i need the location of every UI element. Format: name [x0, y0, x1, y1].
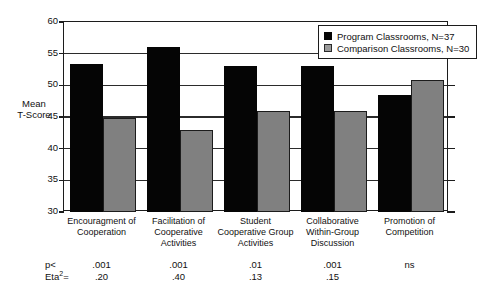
eta-value-cell: .15	[294, 271, 371, 283]
bar-comparison-classrooms	[334, 111, 367, 212]
legend-item: Program Classrooms, N=37	[324, 30, 469, 42]
bar-chart-figure: Mean T-Score 30354045505560 Program Clas…	[0, 0, 494, 297]
y-axis-title-line-1: Mean	[8, 98, 60, 109]
p-value-cell: ns	[371, 259, 448, 271]
y-axis-tick-label: 50	[38, 79, 58, 89]
x-axis-category-label: Promotion ofCompetition	[364, 216, 455, 238]
p-value-cell: .001	[63, 259, 140, 271]
x-axis-category-label-line: Competition	[364, 227, 455, 238]
statistics-block: p< Eta2= .001.20.001.40.01.13.001.15ns	[0, 259, 494, 289]
y-axis-tick-mark-left	[59, 53, 64, 54]
y-axis-tick-label: 35	[38, 174, 58, 184]
y-axis-tick-label: 45	[38, 111, 58, 121]
y-axis-tick-label: 30	[38, 206, 58, 216]
y-axis-tick-mark-left	[59, 180, 64, 181]
y-axis-tick-mark-right	[447, 148, 455, 150]
x-axis-category-label-line: Discussion	[287, 238, 378, 249]
bar-comparison-classrooms	[103, 118, 136, 212]
y-axis-tick-label: 55	[38, 48, 58, 58]
bar-program-classrooms	[301, 66, 334, 212]
bar-program-classrooms	[378, 95, 411, 212]
black-square-swatch	[324, 32, 332, 40]
p-value-cell: .001	[294, 259, 371, 271]
y-axis-tick-mark-right	[447, 85, 455, 87]
y-axis-tick-mark-right	[447, 211, 455, 213]
y-axis-tick-mark-left	[59, 211, 64, 212]
p-row-label: p<	[45, 259, 56, 271]
y-axis-tick-label: 40	[38, 143, 58, 153]
y-axis-tick-label: 60	[38, 16, 58, 26]
bar-comparison-classrooms	[180, 130, 213, 212]
legend: Program Classrooms, N=37Comparison Class…	[318, 25, 477, 59]
p-value-cell: .001	[140, 259, 217, 271]
bar-program-classrooms	[224, 66, 257, 212]
legend-item-label: Comparison Classrooms, N=30	[337, 43, 469, 54]
x-axis-category-label-line: Promotion of	[364, 216, 455, 227]
eta-value-cell: .13	[217, 271, 294, 283]
eta-value-cell: .20	[63, 271, 140, 283]
bar-comparison-classrooms	[257, 111, 290, 212]
y-axis-tick-mark-right	[447, 180, 455, 182]
bar-comparison-classrooms	[411, 80, 444, 212]
bar-program-classrooms	[147, 47, 180, 212]
y-axis-tick-mark-left	[59, 148, 64, 149]
y-axis-tick-mark-left	[59, 116, 64, 117]
legend-item-label: Program Classrooms, N=37	[337, 31, 454, 42]
y-axis-tick-mark-left	[59, 85, 64, 86]
y-axis-tick-mark-left	[59, 21, 64, 22]
eta-value-cell: .40	[140, 271, 217, 283]
y-axis-tick-mark-right	[447, 116, 455, 118]
gray-square-swatch	[324, 44, 332, 52]
legend-item: Comparison Classrooms, N=30	[324, 42, 469, 54]
bar-program-classrooms	[70, 64, 103, 212]
p-value-cell: .01	[217, 259, 294, 271]
